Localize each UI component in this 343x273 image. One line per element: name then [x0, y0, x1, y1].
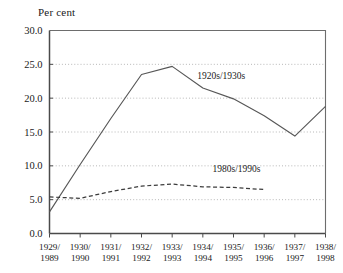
chart-container: Per cent 0.05.010.015.020.025.030.0 1929… — [0, 0, 343, 273]
x-axis-tick-label-bottom: 1993 — [163, 253, 182, 263]
series-line-solid — [50, 66, 326, 211]
x-axis-tick-label-top: 1930/ — [70, 242, 91, 252]
x-axis-tick-label-top: 1931/ — [100, 242, 121, 252]
y-axis-tick-label: 0.0 — [29, 228, 42, 239]
x-axis-tick-label-bottom: 1990 — [71, 253, 90, 263]
x-axis-tick-label-bottom: 1989 — [40, 253, 59, 263]
x-axis-tick-label-bottom: 1995 — [224, 253, 243, 263]
x-axis-tick-label-top: 1937/ — [284, 242, 305, 252]
x-axis-tick-label-top: 1929/ — [39, 242, 60, 252]
x-axis-tick-label-bottom: 1996 — [255, 253, 274, 263]
y-axis-tick-label: 15.0 — [24, 127, 42, 138]
series-annotation: 1920s/1930s — [197, 71, 245, 81]
x-axis-tick-label-top: 1932/ — [131, 242, 152, 252]
x-axis-tick-label-top: 1934/ — [192, 242, 213, 252]
y-axis-tick-label: 20.0 — [24, 93, 42, 104]
line-chart: 0.05.010.015.020.025.030.0 1929/19891930… — [0, 0, 343, 273]
series-annotation: 1980s/1990s — [213, 164, 261, 174]
x-axis-tick-label-top: 1938/ — [315, 242, 336, 252]
y-axis-tick-label: 10.0 — [24, 160, 42, 171]
x-axis-tick-label-top: 1933/ — [162, 242, 183, 252]
x-axis-tick-label-bottom: 1992 — [132, 253, 151, 263]
x-axis-tick-label-bottom: 1997 — [286, 253, 305, 263]
x-axis-tick-label-top: 1936/ — [254, 242, 275, 252]
x-axis-tick-label-top: 1935/ — [223, 242, 244, 252]
plot-frame — [50, 31, 326, 234]
x-axis-tick-label-bottom: 1991 — [102, 253, 121, 263]
y-axis-tick-label: 25.0 — [24, 59, 42, 70]
y-axis-ticks: 0.05.010.015.020.025.030.0 — [24, 25, 53, 239]
series-line-dashed — [50, 184, 265, 198]
series-annotations: 1920s/1930s1980s/1990s — [197, 71, 261, 174]
gridlines-group — [50, 64, 326, 199]
x-axis-tick-label-bottom: 1998 — [316, 253, 335, 263]
data-series-group — [50, 66, 326, 211]
y-axis-tick-label: 5.0 — [29, 194, 42, 205]
plot-border — [50, 31, 326, 234]
x-axis-ticks: 1929/19891930/19901931/19911932/19921933… — [39, 234, 336, 263]
x-axis-tick-label-bottom: 1994 — [194, 253, 213, 263]
y-axis-tick-label: 30.0 — [24, 25, 42, 36]
